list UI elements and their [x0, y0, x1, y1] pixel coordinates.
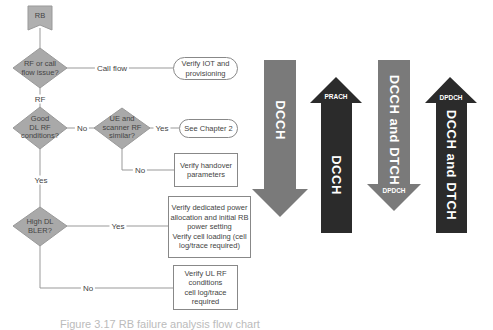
decision-high-dl-bler: High DL BLER? [26, 218, 53, 235]
action-verify-dedicated-power: Verify dedicated power allocation and in… [168, 196, 251, 258]
arrow-3-label: DCCH and DTCH [387, 75, 402, 186]
action-line: cell log/trace [184, 288, 226, 298]
decision-ue-scanner-similar: UE and scanner RF similar? [103, 115, 142, 141]
decision-line: conditions? [21, 132, 59, 141]
action-line: Verify UL RF [184, 269, 226, 279]
action-line: allocation and initial RB [171, 213, 249, 223]
start-label: RB [35, 12, 45, 21]
action-line: log/trace required) [171, 241, 249, 251]
decision-line: flow issue? [21, 68, 58, 77]
edge-label-yes-dl: Yes [32, 176, 49, 185]
decision-good-dl-rf: Good DL RF conditions? [21, 115, 59, 141]
edge-label-yes-ue: Yes [153, 124, 170, 133]
edge-label-no-bler: No [81, 284, 95, 293]
edge-label-no-dl: No [75, 124, 89, 133]
arrow-1-label: DCCH [273, 100, 288, 140]
action-verify-handover: Verify handover parameters [174, 153, 238, 187]
edge-label-no-ue: No [133, 166, 147, 175]
terminal-line: Verify IOT and [182, 59, 230, 69]
action-line: conditions [184, 278, 226, 288]
decision-rf-or-call-flow: RF or call flow issue? [21, 60, 58, 77]
action-line: parameters [180, 170, 232, 180]
edge-label-call-flow: Call flow [95, 64, 129, 73]
terminal-line: See Chapter 2 [184, 124, 232, 134]
terminal-verify-iot: Verify IOT and provisioning [173, 57, 238, 80]
arrow-4-label: DCCH and DTCH [444, 110, 459, 221]
terminal-see-chapter-2: See Chapter 2 [179, 119, 238, 138]
figure-caption: Figure 3.17 RB failure analysis flow cha… [60, 318, 260, 330]
terminal-line: provisioning [182, 69, 230, 79]
arrow-2-sublabel: PRACH [324, 93, 347, 100]
arrow-4-sublabel: DPDCH [439, 94, 462, 101]
action-line: power setting [171, 222, 249, 232]
action-line: Verify handover [180, 161, 232, 171]
edge-label-rf: RF [33, 95, 48, 104]
action-line: Verify dedicated power [171, 203, 249, 213]
decision-line: similar? [103, 132, 142, 141]
arrow-3-sublabel: DPDCH [382, 187, 405, 194]
action-line: Verify cell loading (cell [171, 232, 249, 242]
action-line: required [184, 297, 226, 307]
arrow-2-label: DCCH [329, 155, 344, 195]
decision-line: BLER? [26, 226, 53, 235]
edge-label-yes-bler: Yes [109, 222, 126, 231]
action-verify-ul-rf: Verify UL RF conditions cell log/trace r… [173, 265, 238, 310]
